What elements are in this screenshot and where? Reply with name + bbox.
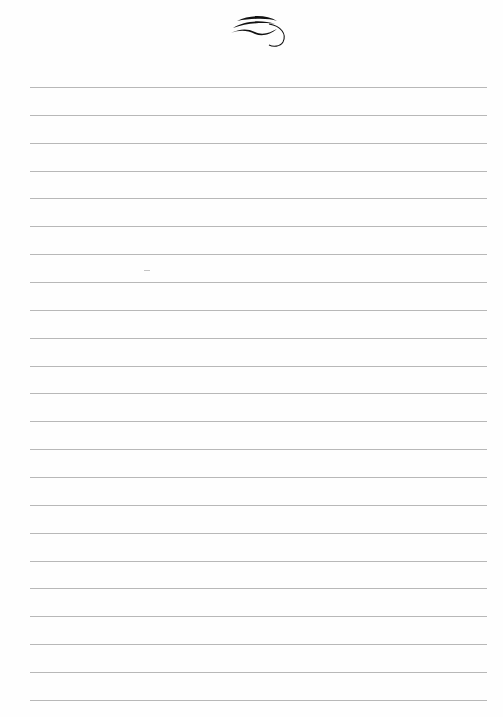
ruled-line bbox=[30, 700, 487, 701]
ruled-line bbox=[30, 477, 487, 478]
ruled-line bbox=[30, 198, 487, 199]
ruled-line bbox=[30, 254, 487, 255]
ruled-line bbox=[30, 87, 487, 88]
ruled-line bbox=[30, 115, 487, 116]
ruled-line bbox=[30, 644, 487, 645]
ruled-paper-page bbox=[0, 0, 503, 717]
ruled-line bbox=[30, 338, 487, 339]
ruled-line bbox=[30, 171, 487, 172]
ruled-line bbox=[30, 449, 487, 450]
ruled-line bbox=[30, 505, 487, 506]
ruled-line bbox=[30, 393, 487, 394]
ruled-line bbox=[30, 533, 487, 534]
ruled-line bbox=[30, 282, 487, 283]
ruled-line bbox=[30, 226, 487, 227]
ruled-line bbox=[30, 421, 487, 422]
ruled-line bbox=[30, 588, 487, 589]
ruled-line bbox=[30, 366, 487, 367]
ruled-line bbox=[30, 310, 487, 311]
ruled-line bbox=[30, 672, 487, 673]
ruled-line bbox=[30, 561, 487, 562]
stray-pen-mark bbox=[144, 270, 150, 271]
ruled-line bbox=[30, 143, 487, 144]
ruled-lines bbox=[0, 0, 503, 717]
ruled-line bbox=[30, 616, 487, 617]
